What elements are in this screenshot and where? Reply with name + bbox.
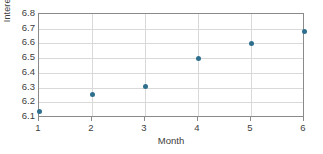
data-point <box>90 92 95 97</box>
data-point <box>196 56 201 61</box>
y-axis-title: Interest rate (%) <box>0 0 14 41</box>
gridline-horizontal <box>39 29 303 30</box>
gridline-horizontal <box>39 73 303 74</box>
gridline-horizontal <box>39 58 303 59</box>
x-axis-title: Month <box>38 135 304 147</box>
gridline-vertical <box>198 14 199 116</box>
cropped-chart-title <box>56 0 176 3</box>
data-point <box>37 109 42 114</box>
x-axis-tick-label: 3 <box>132 121 156 134</box>
scatter-chart: Interest rate (%) 6.16.26.36.46.56.66.76… <box>0 0 323 154</box>
y-axis-tick-label: 6.6 <box>14 36 35 48</box>
y-axis-tick-label: 6.4 <box>14 66 35 78</box>
x-axis-tick-label: 4 <box>185 121 209 134</box>
gridline-horizontal <box>39 88 303 89</box>
data-point <box>143 84 148 89</box>
data-point <box>302 29 307 34</box>
gridline-horizontal <box>39 43 303 44</box>
y-axis-tick-label: 6.3 <box>14 81 35 93</box>
y-axis-tick-labels: 6.16.26.36.46.56.66.76.8 <box>14 13 35 117</box>
y-axis-tick-label: 6.7 <box>14 22 35 34</box>
x-axis-tick-label: 5 <box>238 121 262 134</box>
y-axis-tick-label: 6.2 <box>14 95 35 107</box>
gridline-vertical <box>251 14 252 116</box>
y-axis-tick-label: 6.5 <box>14 51 35 63</box>
gridline-vertical <box>92 14 93 116</box>
plot-area <box>38 13 304 117</box>
data-point <box>249 41 254 46</box>
x-axis-tick-label: 1 <box>26 121 50 134</box>
gridline-vertical <box>145 14 146 116</box>
x-axis-tick-label: 2 <box>79 121 103 134</box>
x-axis-tick-labels: 123456 <box>38 121 304 134</box>
y-axis-tick-label: 6.8 <box>14 7 35 19</box>
x-axis-tick-label: 6 <box>291 121 315 134</box>
gridline-horizontal <box>39 102 303 103</box>
